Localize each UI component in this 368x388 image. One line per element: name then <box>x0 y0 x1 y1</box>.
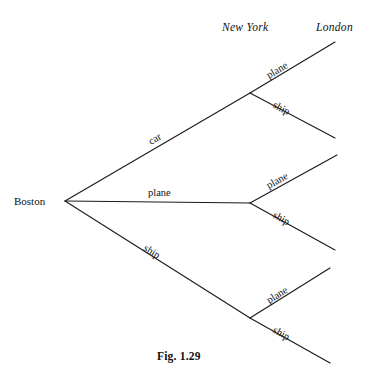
tree-edge-plane <box>65 201 250 203</box>
tree-edges-group <box>65 42 337 363</box>
figure-container: New York London Boston carplaneshipplane… <box>0 0 368 388</box>
tree-edge-ship <box>250 93 335 138</box>
tree-edge-plane <box>250 42 335 93</box>
stage-header-new-york: New York <box>222 22 268 34</box>
tree-edge-ship <box>250 318 330 363</box>
stage-header-london: London <box>316 22 353 34</box>
tree-edge-ship <box>250 203 335 250</box>
tree-diagram-svg <box>0 0 368 388</box>
tree-edge-car <box>65 93 250 201</box>
tree-edge-ship <box>65 201 250 318</box>
figure-caption: Fig. 1.29 <box>157 351 201 363</box>
edge-label-plane: plane <box>148 188 171 199</box>
root-node-label-boston: Boston <box>14 196 45 207</box>
tree-edge-plane <box>250 155 337 203</box>
